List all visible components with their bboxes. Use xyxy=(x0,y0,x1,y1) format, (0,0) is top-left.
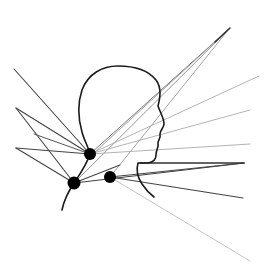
ray-upper-to-right-3 xyxy=(90,144,250,154)
ray-lower-to-apex xyxy=(74,29,229,183)
ray-apex-tip xyxy=(215,28,230,42)
ray-upper-to-apex-2 xyxy=(95,29,229,152)
ray-right-to-right-2 xyxy=(110,177,243,198)
ray-upper-to-right-1 xyxy=(90,76,259,154)
ray-right-to-right-1 xyxy=(110,163,244,177)
nodes xyxy=(68,148,117,190)
ray-left-low-to-lower xyxy=(16,148,74,183)
ray-right-to-apex xyxy=(110,29,229,177)
rays-to-right xyxy=(74,76,259,261)
ray-right-to-far xyxy=(110,177,250,261)
rays-to-apex xyxy=(74,28,230,183)
node-upper xyxy=(84,148,96,160)
node-lower-left xyxy=(68,177,81,190)
diagram-canvas xyxy=(0,0,271,268)
ray-left-low-to-upper xyxy=(16,148,90,154)
rays-to-left xyxy=(14,69,120,183)
node-right xyxy=(104,171,116,183)
